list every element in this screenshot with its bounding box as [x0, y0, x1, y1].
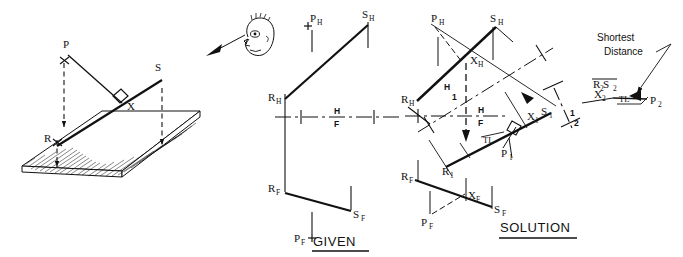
solution-label-xh: X	[470, 54, 478, 66]
solution-label-tl-view2: TL	[619, 94, 629, 104]
solution-label-rf: R	[401, 170, 409, 182]
given-fold-label-f: F	[334, 119, 339, 129]
given-point-ticks	[285, 22, 368, 234]
pictorial-label-x: X	[127, 100, 135, 112]
given-label-sf-sub: F	[361, 214, 365, 223]
solution-line-sh-ext	[496, 27, 513, 42]
solution-label-p1: P	[501, 147, 507, 159]
solution-label-sf-sub: F	[502, 209, 506, 218]
solution-fold-label-12-2: 2	[574, 118, 579, 128]
pictorial-label-r: R	[44, 132, 52, 144]
solution-panel: H F H 1	[401, 12, 671, 238]
solution-fold-label-h1-h: H	[444, 82, 450, 92]
drawing-sheet: P S R X	[0, 0, 683, 257]
solution-label-r2s2-sub-b: 2	[613, 84, 617, 93]
given-label-rh: R	[268, 91, 276, 103]
given-label-rf: R	[268, 182, 276, 194]
solution-label-ph: P	[431, 12, 437, 24]
solution-label-xf-sub: F	[476, 195, 480, 204]
given-label-ph: P	[310, 12, 316, 24]
solution-fold-label-h: H	[478, 105, 484, 115]
shortest-distance-line1: Shortest	[597, 32, 634, 43]
solution-label-x1: X	[527, 110, 535, 122]
solution-label-s1: S	[541, 105, 547, 117]
given-label-sf: S	[353, 208, 359, 220]
plane-slab	[22, 111, 200, 177]
solution-label-r1: R	[442, 165, 450, 177]
solution-label-x1-sub: 1	[535, 116, 539, 125]
solution-label-rf-sub: F	[409, 176, 413, 185]
solution-construction-arrowhead	[521, 92, 534, 104]
given-label-pf: P	[294, 232, 300, 244]
solution-label-xf: X	[468, 189, 476, 201]
solution-label-p2: P	[650, 94, 656, 106]
given-label-rf-sub: F	[276, 188, 280, 197]
pictorial-label-p: P	[63, 38, 69, 50]
solution-projector-arrowhead	[462, 130, 470, 142]
point-ticks	[53, 57, 69, 146]
given-line-rh-sh	[285, 25, 368, 99]
pictorial-panel: P S R X	[22, 13, 274, 177]
solution-label-ph-sub: H	[439, 18, 445, 27]
given-label-rh-sub: H	[276, 97, 282, 106]
pictorial-label-s: S	[155, 61, 161, 73]
solution-labels: P H S H X H R H R 1 X 1 P 1 S 1 R F X F …	[401, 12, 662, 231]
solution-label-r1-sub: 1	[450, 171, 454, 180]
given-fold-label-h: H	[334, 106, 340, 116]
shortest-distance-line2: Distance	[604, 46, 643, 57]
solution-label-xh-sub: H	[478, 60, 484, 69]
solution-label-pf: P	[421, 216, 427, 228]
solution-label-rh-sub: H	[409, 99, 415, 108]
solution-caption: SOLUTION	[500, 220, 570, 235]
technical-drawing-svg: P S R X	[0, 0, 683, 257]
solution-label-rh: R	[401, 93, 409, 105]
solution-tl-tick-view2	[641, 97, 648, 104]
viewing-direction-arrow	[206, 35, 245, 56]
given-labels: P H S H R H R F S F P F	[268, 8, 375, 247]
given-panel: H F P H S H R	[268, 8, 400, 251]
solution-fold-label-h1-1: 1	[452, 92, 457, 102]
solution-label-p1-sub: 1	[509, 153, 513, 162]
solution-fold-label-12-1: 1	[570, 108, 575, 118]
given-line-rf-sf	[285, 193, 351, 211]
solution-front-ticks	[418, 160, 492, 214]
given-caption: GIVEN	[313, 234, 356, 249]
solution-label-x2-sub: 2	[602, 94, 606, 103]
segment-px	[68, 55, 128, 103]
solution-label-p2-sub: 2	[658, 100, 662, 109]
solution-line-ph-xh	[435, 27, 462, 62]
solution-fold-label-f: F	[478, 118, 483, 128]
given-label-pf-sub: F	[301, 238, 305, 247]
given-label-sh: S	[362, 8, 368, 20]
solution-line-pf-xf	[432, 194, 465, 214]
solution-label-sf: S	[494, 203, 500, 215]
solution-line-rh-sh	[417, 27, 496, 101]
given-label-ph-sub: H	[317, 18, 323, 27]
solution-label-s1-sub: 1	[549, 111, 553, 120]
given-label-sh-sub: H	[369, 14, 375, 23]
solution-line-rf-sf	[415, 180, 492, 207]
solution-label-x2: X	[594, 88, 602, 100]
solution-label-sh-sub: H	[498, 18, 504, 27]
solution-label-sh: S	[490, 12, 496, 24]
solution-label-pf-sub: F	[429, 222, 433, 231]
eye-face-icon	[244, 13, 274, 56]
